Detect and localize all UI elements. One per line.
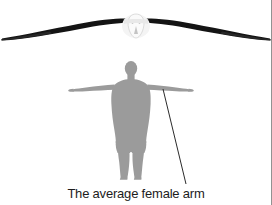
leader-line <box>163 89 186 184</box>
annotation-leader-line <box>0 0 272 205</box>
annotation-caption: The average female arm <box>0 186 272 202</box>
right-edge-rule <box>271 0 272 205</box>
comparison-figure: The average female arm <box>0 0 272 205</box>
